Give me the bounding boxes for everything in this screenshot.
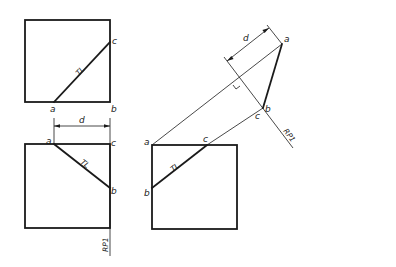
tl-label-bottom-right: TL [169, 161, 181, 173]
label-b-top: b [111, 104, 117, 114]
auxiliary-view: a b c RP1 d [224, 25, 297, 148]
label-a-bottom-right: a [144, 137, 150, 147]
label-a-bottom-left: a [46, 136, 52, 146]
top-left-view: TL c a b [25, 20, 117, 114]
tl-label-top: TL [74, 65, 87, 78]
label-c-aux: c [255, 111, 260, 121]
label-d-aux: d [243, 33, 249, 43]
extension-line-a-aux [267, 25, 282, 44]
auxiliary-line-ab [263, 44, 282, 108]
tl-label-bottom-left: TL [79, 157, 91, 169]
label-c-top: c [112, 36, 117, 46]
label-a-aux: a [284, 34, 290, 44]
label-a-top: a [50, 104, 56, 114]
rp1-label-left: RP1 [101, 237, 110, 252]
label-b-bottom-right: b [144, 188, 150, 198]
top-left-square [25, 20, 110, 102]
diagram-canvas: TL c a b d TL a c b RP1 TL a c b [0, 0, 396, 267]
rp1-label-aux: RP1 [281, 127, 297, 144]
arrow-left-icon [54, 124, 60, 128]
projection-lines [152, 44, 282, 145]
bottom-right-square [152, 145, 237, 229]
dimension-d-left: d [54, 115, 110, 144]
bottom-left-view: TL a c b RP1 [25, 118, 117, 256]
label-d-left: d [79, 115, 85, 125]
projection-line-a [152, 44, 282, 145]
label-c-bottom-left: c [111, 138, 116, 148]
arrow-right-icon [104, 124, 110, 128]
reference-plane-rp1-inclined [224, 57, 293, 148]
label-b-bottom-left: b [111, 186, 117, 196]
label-b-aux: b [265, 104, 271, 114]
right-angle-marker [233, 85, 240, 89]
label-c-bottom-right: c [203, 134, 208, 144]
bottom-right-view: TL a c b [144, 134, 237, 229]
bottom-left-square [25, 144, 110, 228]
